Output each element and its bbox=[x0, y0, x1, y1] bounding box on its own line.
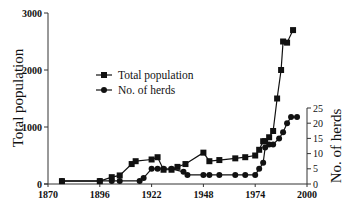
square-marker bbox=[256, 147, 262, 153]
square-marker bbox=[200, 150, 206, 156]
circle-marker bbox=[155, 166, 161, 172]
legend-circle-marker bbox=[101, 87, 107, 93]
square-marker bbox=[252, 153, 258, 159]
circle-marker bbox=[184, 172, 190, 178]
y2-tick-label: 10 bbox=[313, 148, 323, 159]
circle-marker bbox=[288, 114, 294, 120]
y2-axis-label: No. of herds bbox=[328, 109, 344, 184]
square-marker bbox=[216, 157, 222, 163]
square-marker bbox=[117, 172, 123, 178]
legend-label: Total population bbox=[118, 69, 194, 82]
y2-tick-label: 25 bbox=[313, 103, 323, 114]
legend: Total populationNo. of herds bbox=[96, 69, 194, 96]
square-marker bbox=[242, 154, 248, 160]
x-tick-label: 1922 bbox=[142, 189, 162, 200]
y2-tick-label: 20 bbox=[313, 118, 323, 129]
y2-tick-label: 0 bbox=[313, 179, 318, 190]
circle-marker bbox=[161, 166, 167, 172]
square-marker bbox=[182, 161, 188, 167]
x-tick-label: 1974 bbox=[245, 189, 265, 200]
circle-marker bbox=[97, 178, 103, 184]
circle-marker bbox=[149, 166, 155, 172]
circle-marker bbox=[276, 135, 282, 141]
square-marker bbox=[175, 164, 181, 170]
square-marker bbox=[206, 158, 212, 164]
x-tick-label: 1948 bbox=[193, 189, 213, 200]
circle-marker bbox=[270, 141, 276, 147]
circle-marker bbox=[59, 178, 65, 184]
circle-marker bbox=[216, 172, 222, 178]
circle-marker bbox=[280, 129, 286, 135]
circle-marker bbox=[200, 172, 206, 178]
circle-marker bbox=[206, 172, 212, 178]
circle-marker bbox=[109, 178, 115, 184]
circle-marker bbox=[232, 172, 238, 178]
y-tick-label: 0 bbox=[37, 179, 42, 190]
square-marker bbox=[155, 154, 161, 160]
circle-marker bbox=[117, 178, 123, 184]
square-marker bbox=[290, 27, 296, 33]
legend-label: No. of herds bbox=[118, 84, 176, 96]
square-marker bbox=[270, 128, 276, 134]
x-tick-label: 1896 bbox=[90, 189, 110, 200]
square-marker bbox=[133, 158, 139, 164]
y2-tick-label: 15 bbox=[313, 133, 323, 144]
square-marker bbox=[266, 134, 272, 140]
legend-square-marker bbox=[101, 72, 107, 78]
circle-marker bbox=[260, 160, 266, 166]
x-tick-label: 1870 bbox=[38, 189, 58, 200]
population-herds-chart: 0100020003000187018961922194819742000051… bbox=[0, 0, 352, 210]
circle-marker bbox=[294, 114, 300, 120]
circle-marker bbox=[242, 172, 248, 178]
y2-tick-label: 5 bbox=[313, 163, 318, 174]
chart-svg: 0100020003000187018961922194819742000051… bbox=[0, 0, 352, 210]
square-marker bbox=[149, 156, 155, 162]
circle-marker bbox=[284, 120, 290, 126]
y-tick-label: 3000 bbox=[22, 8, 42, 19]
circle-marker bbox=[169, 166, 175, 172]
series-layer bbox=[59, 27, 300, 184]
y-axis-label: Total population bbox=[10, 48, 26, 147]
square-marker bbox=[278, 67, 284, 73]
square-marker bbox=[274, 96, 280, 102]
population-line bbox=[62, 30, 293, 181]
circle-marker bbox=[256, 166, 262, 172]
circle-marker bbox=[141, 175, 147, 181]
x-tick-label: 2000 bbox=[297, 189, 317, 200]
square-marker bbox=[284, 40, 290, 46]
circle-marker bbox=[252, 172, 258, 178]
square-marker bbox=[232, 155, 238, 161]
